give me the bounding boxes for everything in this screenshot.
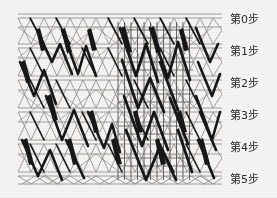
step-label-5: 第5步 [230,174,259,185]
step-label-column: 第0步 第1步 第2步 第3步 第4步 第5步 [230,0,277,198]
step-label-2: 第2步 [230,78,259,89]
step-label-3: 第3步 [230,110,259,121]
step-label-0: 第0步 [230,14,259,25]
step-label-4: 第4步 [230,142,259,153]
step-label-1: 第1步 [230,46,259,57]
